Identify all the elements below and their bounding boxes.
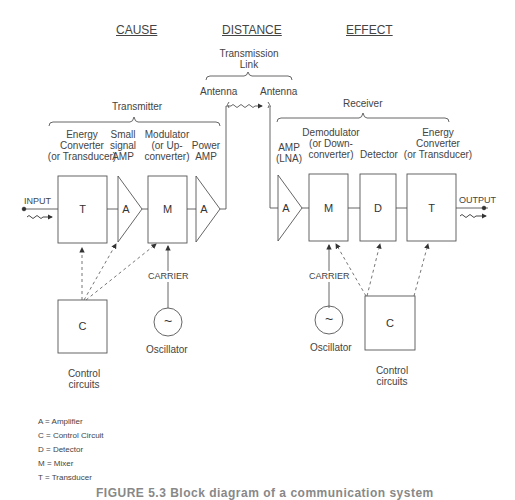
rx-lna-symbol: A [278,202,294,214]
rx-control-caption: Control circuits [372,365,412,387]
rx-lna-caption: AMP (LNA) [274,142,304,164]
output-label: OUTPUT [459,195,496,206]
rx-transducer-caption: Energy Converter (or Transducer) [400,127,476,160]
tx-carrier-label: CARRIER [148,271,189,282]
tx-power-amp-caption: Power AMP [190,140,222,162]
antenna-right-label: Antenna [260,86,297,97]
rx-detector-caption: Detector [357,149,401,160]
transmission-link-brace [206,72,292,80]
tx-modulator-symbol: M [148,203,187,215]
legend-item: C = Control Circuit [38,429,104,443]
transmitter-label: Transmitter [112,101,162,112]
rx-oscillator-symbol: ~ [315,311,343,327]
tx-control-caption: Control circuits [64,368,104,390]
figure-caption: FIGURE 5.3 Block diagram of a communicat… [96,486,434,500]
rx-carrier-label: CARRIER [309,271,350,282]
rx-oscillator-label: Oscillator [310,342,352,353]
tx-oscillator-label: Oscillator [146,344,188,355]
tx-small-amp-symbol: A [118,203,134,215]
rx-demodulator-symbol: M [309,202,348,214]
tx-transducer-symbol: T [58,203,107,215]
rx-detector-symbol: D [360,202,396,214]
legend-item: A = Amplifier [38,415,104,429]
cause-header: CAUSE [116,23,157,37]
input-label: INPUT [24,196,51,207]
tx-modulator-caption: Modulator (or Up- converter) [142,129,192,162]
transmission-link-label: Transmission Link [218,48,280,70]
receiver-brace [277,113,449,122]
legend-item: M = Mixer [38,457,104,471]
transmitter-brace [49,117,220,126]
legend: A = Amplifier C = Control Circuit D = De… [38,415,104,485]
distance-header: DISTANCE [222,23,282,37]
tx-oscillator-symbol: ~ [154,313,182,329]
antenna-left-label: Antenna [200,86,237,97]
receiver-label: Receiver [343,98,382,109]
effect-header: EFFECT [346,23,393,37]
legend-item: D = Detector [38,443,104,457]
rx-transducer-symbol: T [407,202,456,214]
tx-power-amp-symbol: A [196,203,212,215]
legend-item: T = Transducer [38,471,104,485]
rx-control-symbol: C [365,317,415,329]
tx-control-symbol: C [58,320,107,332]
rx-demodulator-caption: Demodulator (or Down- converter) [301,127,361,160]
tx-small-amp-caption: Small signal AMP [108,129,138,162]
